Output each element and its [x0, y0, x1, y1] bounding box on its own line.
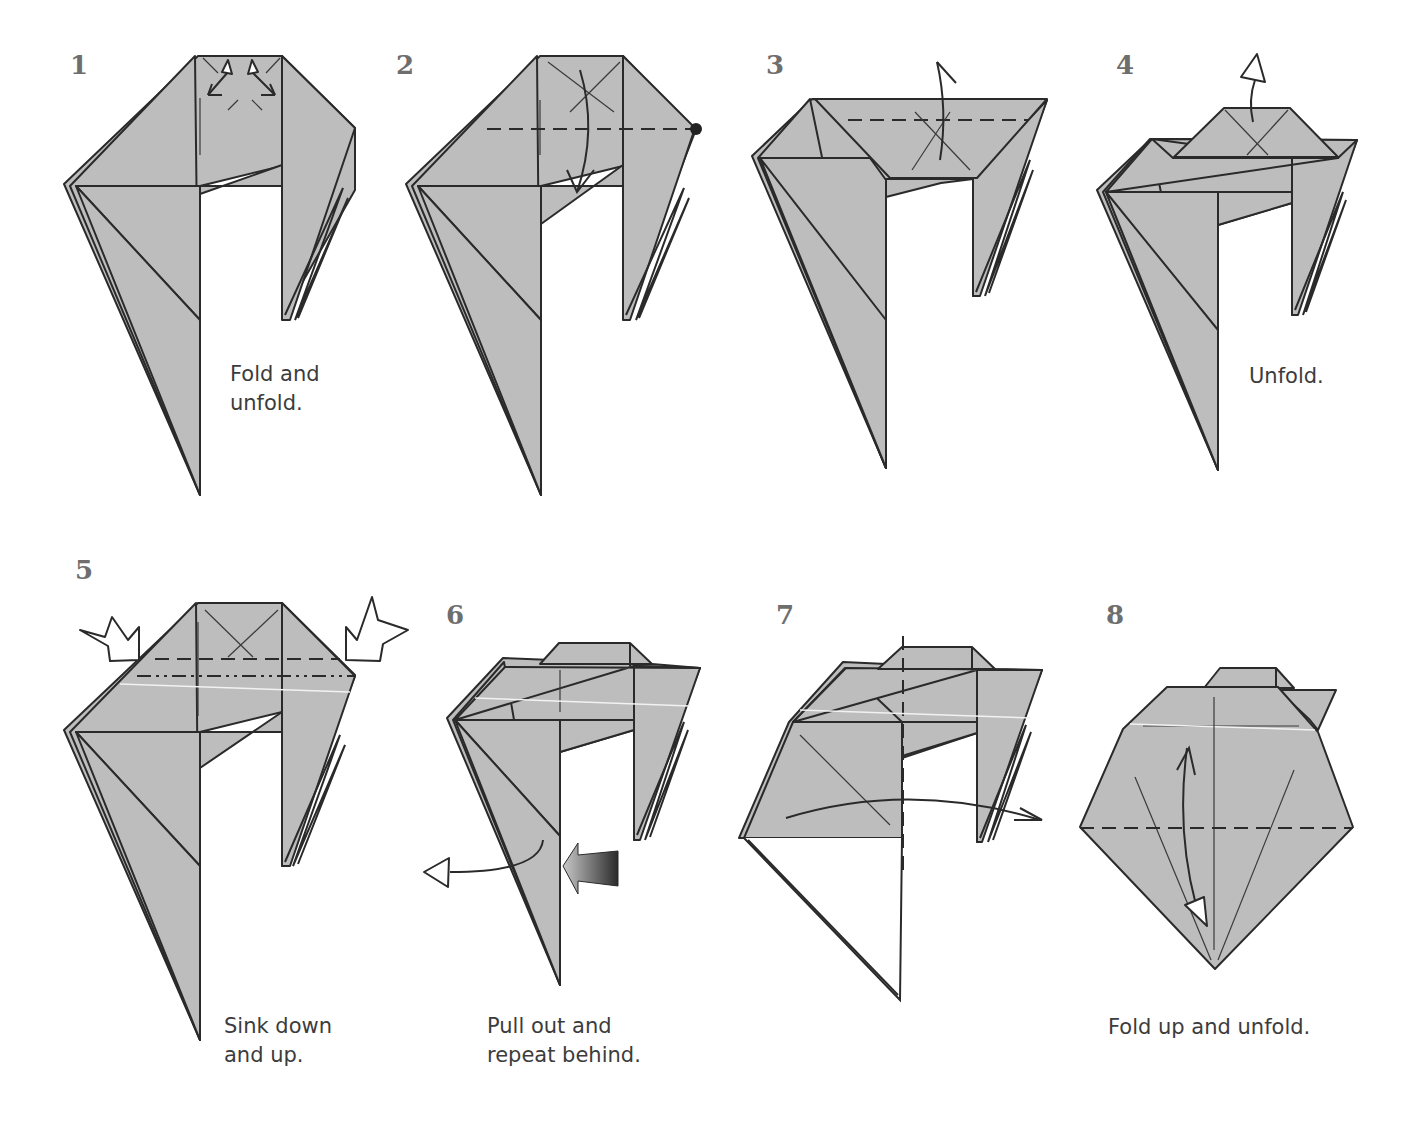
- step-8: 8 Fold up and unfold.: [0, 0, 1417, 1126]
- step-caption: Fold up and unfold.: [1108, 1013, 1310, 1042]
- step-8-diagram: [0, 0, 1417, 1126]
